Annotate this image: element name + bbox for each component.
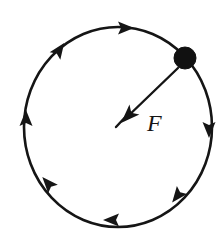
- circular-motion-figure: F: [0, 0, 224, 241]
- arrow-left-icon: [20, 110, 33, 126]
- arrow-bottom-icon: [103, 214, 119, 227]
- particle-ball: [174, 47, 196, 69]
- force-label: F: [146, 110, 162, 136]
- arrow-right-icon: [203, 122, 216, 138]
- diagram-canvas: F: [0, 0, 224, 241]
